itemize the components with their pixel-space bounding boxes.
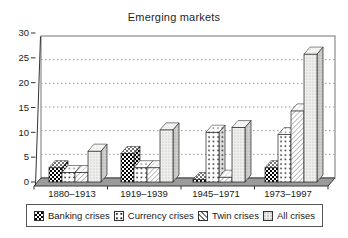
bar-currency-crises-1945-1971: [206, 132, 219, 182]
bar-currency-crises-1919-1939: [134, 168, 147, 182]
bar-all-crises-1919-1939: [160, 130, 173, 182]
bar-twin-crises-1945-1971: [219, 177, 232, 182]
y-axis-label-0: 0: [24, 176, 29, 187]
bar-twin-crises-1973-1997: [291, 111, 304, 182]
legend-item-twin-crises: Twin crises: [198, 210, 259, 221]
legend-swatch-sparse-dots: [114, 211, 124, 221]
bar-side-shade: [245, 121, 251, 182]
legend-item-all-crises: All crises: [263, 210, 315, 221]
chart-legend: Banking crisesCurrency crisesTwin crises…: [26, 204, 323, 227]
bar-chart-canvas: 0510152025301880–19131919–19391945–19711…: [0, 0, 348, 202]
y-axis-label-30: 30: [18, 27, 29, 38]
bar-currency-crises-1880-1913: [62, 173, 75, 182]
figure-emerging-markets: Emerging markets 0510152025301880–191319…: [0, 0, 348, 238]
legend-label: Banking crises: [48, 210, 110, 221]
legend-swatch-fine-dots-gray: [263, 211, 273, 221]
y-axis-label-5: 5: [24, 151, 29, 162]
legend-label: Twin crises: [212, 210, 259, 221]
bar-all-crises-1973-1997: [304, 54, 317, 182]
legend-label: Currency crises: [128, 210, 194, 221]
y-axis-label-25: 25: [18, 52, 29, 63]
bar-banking-crises-1973-1997: [265, 168, 278, 182]
bar-all-crises-1880-1913: [88, 151, 101, 182]
bar-twin-crises-1919-1939: [147, 168, 160, 182]
x-axis-label-3: 1973–1997: [264, 188, 312, 199]
legend-swatch-diagonal-hatch: [198, 211, 208, 221]
bar-twin-crises-1880-1913: [75, 173, 88, 182]
x-axis-label-2: 1945–1971: [192, 188, 240, 199]
bar-banking-crises-1880-1913: [49, 168, 62, 182]
bar-banking-crises-1945-1971: [193, 180, 206, 182]
bar-currency-crises-1973-1997: [278, 135, 291, 182]
y-axis: [36, 37, 41, 186]
legend-swatch-dark-checker: [34, 211, 44, 221]
bar-all-crises-1945-1971: [232, 128, 245, 182]
x-axis-label-0: 1880–1913: [48, 188, 96, 199]
bar-side-shade: [317, 47, 323, 182]
x-axis-label-1: 1919–1939: [120, 188, 168, 199]
bar-banking-crises-1919-1939: [121, 154, 134, 182]
bar-side-shade: [173, 123, 179, 182]
y-axis-label-10: 10: [18, 127, 29, 138]
y-axis-label-20: 20: [18, 77, 29, 88]
legend-label: All crises: [277, 210, 315, 221]
y-axis-label-15: 15: [18, 102, 29, 113]
legend-item-currency-crises: Currency crises: [114, 210, 194, 221]
legend-item-banking-crises: Banking crises: [34, 210, 110, 221]
